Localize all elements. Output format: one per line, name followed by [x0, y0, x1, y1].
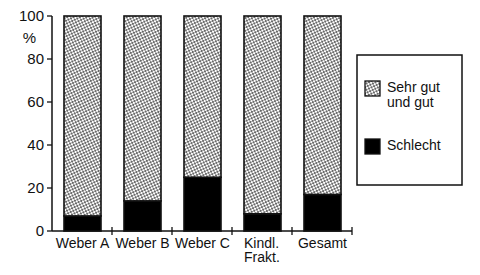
x-category-label: Gesamt — [298, 235, 347, 251]
y-tick-label: 100 — [19, 7, 44, 24]
y-tick-label: 60 — [27, 93, 44, 110]
bar-schlecht — [304, 194, 341, 231]
bar-schlecht — [184, 177, 221, 231]
bar-schlecht — [244, 214, 281, 231]
bars — [64, 16, 341, 231]
y-tick-label: 0 — [36, 222, 44, 239]
legend-label: Sehr gut — [387, 79, 440, 95]
y-tick-label: 40 — [27, 136, 44, 153]
legend-swatch — [365, 139, 380, 154]
bar-schlecht — [64, 216, 101, 231]
bar-sehr-gut-und-gut — [184, 16, 221, 177]
legend: Sehr gutund gutSchlecht — [357, 55, 462, 185]
bar-sehr-gut-und-gut — [244, 16, 281, 214]
legend-swatch — [365, 81, 380, 96]
x-category-label: Weber B — [115, 235, 169, 251]
bar-sehr-gut-und-gut — [124, 16, 161, 201]
legend-label: Schlecht — [387, 137, 441, 153]
bar-sehr-gut-und-gut — [304, 16, 341, 194]
x-category-label: Frakt. — [244, 249, 280, 265]
stacked-bar-chart: 020406080100% Weber AWeber BWeber CKindl… — [0, 0, 480, 275]
bar-sehr-gut-und-gut — [64, 16, 101, 216]
y-tick-label: 20 — [27, 179, 44, 196]
labels: Weber AWeber BWeber CKindl.Frakt.Gesamt — [56, 235, 347, 265]
y-tick-label: 80 — [27, 50, 44, 67]
x-category-label: Weber A — [56, 235, 110, 251]
legend-box — [357, 55, 462, 185]
x-category-label: Weber C — [175, 235, 230, 251]
legend-label: und gut — [387, 94, 434, 110]
y-unit-label: % — [23, 29, 36, 46]
bar-schlecht — [124, 201, 161, 231]
